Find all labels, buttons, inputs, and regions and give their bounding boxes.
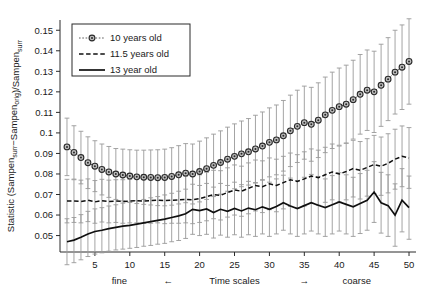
x-tick-label: 40 bbox=[334, 259, 345, 270]
data-point-core bbox=[234, 155, 236, 157]
x-tick-label: 5 bbox=[92, 259, 97, 270]
x-axis-arrow-left: ← bbox=[163, 275, 173, 286]
series-line bbox=[67, 192, 409, 242]
y-tick-label: 0.12 bbox=[35, 86, 54, 97]
data-point-core bbox=[108, 171, 110, 173]
data-point-core bbox=[94, 165, 96, 167]
data-point-core bbox=[408, 60, 410, 62]
data-point-core bbox=[80, 157, 82, 159]
series-line bbox=[67, 156, 409, 202]
x-axis-label-fine: fine bbox=[112, 275, 127, 286]
x-tick-label: 25 bbox=[229, 259, 240, 270]
x-axis-label-coarse: coarse bbox=[342, 275, 371, 286]
legend-marker-core bbox=[91, 37, 93, 39]
data-point-core bbox=[171, 175, 173, 177]
data-point-core bbox=[115, 173, 117, 175]
data-point-core bbox=[352, 99, 354, 101]
chart-canvas: 0.050.060.070.080.090.10.110.120.130.140… bbox=[0, 0, 423, 302]
data-point-core bbox=[136, 176, 138, 178]
y-tick-label: 0.08 bbox=[35, 168, 54, 179]
x-tick-label: 20 bbox=[194, 259, 205, 270]
data-point-core bbox=[185, 172, 187, 174]
data-point-core bbox=[394, 71, 396, 73]
data-point-core bbox=[164, 176, 166, 178]
y-tick-label: 0.1 bbox=[40, 127, 53, 138]
data-point-core bbox=[303, 122, 305, 124]
y-axis-title: Statistic (Sampensurr−Sampenorig)/Sampen… bbox=[5, 39, 23, 232]
data-point-core bbox=[345, 103, 347, 105]
data-point-core bbox=[296, 125, 298, 127]
x-tick-label: 35 bbox=[299, 259, 310, 270]
data-point-core bbox=[331, 109, 333, 111]
figure: 0.050.060.070.080.090.10.110.120.130.140… bbox=[0, 0, 423, 302]
data-point-core bbox=[380, 84, 382, 86]
y-tick-label: 0.13 bbox=[35, 66, 54, 77]
data-point-core bbox=[359, 93, 361, 95]
data-point-core bbox=[101, 168, 103, 170]
data-point-core bbox=[268, 141, 270, 143]
data-point-core bbox=[387, 78, 389, 80]
legend-label: 13 year old bbox=[110, 64, 157, 75]
data-point-core bbox=[317, 119, 319, 121]
data-point-core bbox=[324, 114, 326, 116]
x-tick-label: 10 bbox=[125, 259, 136, 270]
y-tick-label: 0.15 bbox=[35, 25, 54, 36]
data-point-core bbox=[199, 171, 201, 173]
x-axis-arrow-right: → bbox=[300, 275, 310, 286]
data-point-core bbox=[178, 174, 180, 176]
data-point-core bbox=[254, 148, 256, 150]
x-tick-label: 15 bbox=[159, 259, 170, 270]
data-point-core bbox=[129, 175, 131, 177]
data-point-core bbox=[261, 145, 263, 147]
series-line bbox=[67, 61, 409, 177]
data-point-core bbox=[143, 176, 145, 178]
data-point-core bbox=[150, 176, 152, 178]
data-point-core bbox=[338, 106, 340, 108]
data-point-core bbox=[122, 174, 124, 176]
data-point-core bbox=[213, 164, 215, 166]
data-point-core bbox=[373, 91, 375, 93]
data-point-core bbox=[73, 151, 75, 153]
data-point-core bbox=[87, 162, 89, 164]
data-point-core bbox=[247, 151, 249, 153]
y-tick-label: 0.06 bbox=[35, 209, 54, 220]
legend-label: 10 years old bbox=[110, 32, 162, 43]
data-point-core bbox=[220, 161, 222, 163]
data-point-core bbox=[282, 135, 284, 137]
data-point-core bbox=[240, 153, 242, 155]
data-point-core bbox=[227, 158, 229, 160]
data-point-core bbox=[401, 66, 403, 68]
data-point-core bbox=[275, 139, 277, 141]
data-point-core bbox=[206, 168, 208, 170]
data-point-core bbox=[310, 123, 312, 125]
x-tick-label: 50 bbox=[404, 259, 415, 270]
y-tick-label: 0.14 bbox=[35, 45, 54, 56]
x-tick-label: 30 bbox=[264, 259, 275, 270]
data-point-core bbox=[289, 130, 291, 132]
data-point-core bbox=[192, 173, 194, 175]
data-point-core bbox=[66, 146, 68, 148]
data-point-core bbox=[366, 89, 368, 91]
x-axis-title: Time scales bbox=[209, 275, 260, 286]
data-point-core bbox=[157, 177, 159, 179]
legend-label: 11.5 years old bbox=[110, 48, 169, 59]
y-tick-label: 0.09 bbox=[35, 148, 54, 159]
y-tick-label: 0.07 bbox=[35, 189, 54, 200]
y-tick-label: 0.05 bbox=[35, 230, 54, 241]
x-tick-label: 45 bbox=[369, 259, 380, 270]
y-tick-label: 0.11 bbox=[35, 107, 53, 118]
